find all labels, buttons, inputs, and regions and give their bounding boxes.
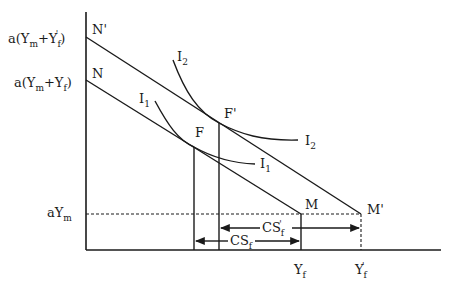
budget-indifference-diagram: a(Ym+Yf') a(Ym+Yf) aYm N' N F F' M M' I1… (0, 0, 460, 285)
y-label-aym: aYm (47, 205, 72, 223)
label-i1-top: I1 (139, 91, 150, 109)
label-i2-top: I2 (177, 49, 188, 67)
label-f: F (195, 125, 204, 140)
x-label-yf: Yf (293, 262, 307, 280)
label-n: N (92, 66, 103, 81)
x-label-yf-prime: Yf' (354, 261, 368, 280)
label-m: M (305, 197, 318, 212)
indifference-curve-i2 (173, 60, 298, 140)
label-cs-f: CSf (230, 233, 253, 251)
label-f-prime: F' (224, 106, 237, 121)
y-label-top: a(Ym+Yf') (8, 29, 65, 49)
label-i2-right: I2 (305, 133, 316, 151)
label-i1-right: I1 (260, 156, 271, 174)
label-cs-f-prime: CSf' (262, 219, 285, 238)
label-m-prime: M' (367, 202, 384, 217)
label-n-prime: N' (92, 22, 107, 37)
y-label-mid: a(Ym+Yf) (14, 75, 72, 93)
